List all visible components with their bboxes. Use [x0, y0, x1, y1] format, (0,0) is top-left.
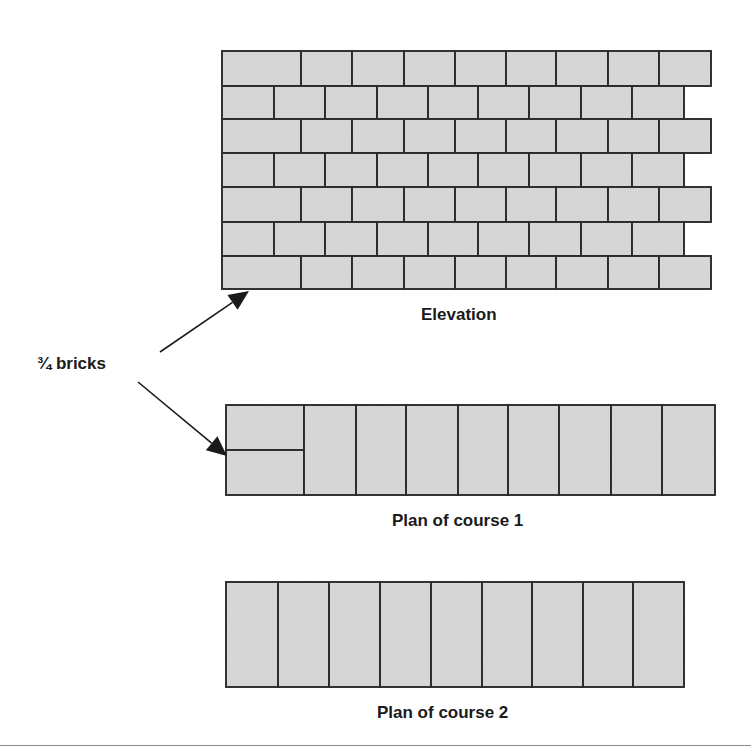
brick-texture: [325, 153, 377, 187]
brick-texture: [455, 187, 506, 222]
brick-texture: [278, 582, 329, 687]
brick-texture: [482, 582, 532, 687]
three-quarter-bricks-label: ¾ bricks: [37, 354, 106, 374]
arrow-line: [160, 302, 233, 352]
brick-texture: [377, 86, 428, 119]
brick-texture: [532, 582, 583, 687]
brick-texture: [455, 51, 506, 86]
arrow-line: [138, 382, 212, 443]
brick-texture: [222, 51, 301, 86]
brick-texture: [301, 119, 352, 153]
brick-texture: [581, 86, 632, 119]
brick-texture: [377, 153, 428, 187]
brick-texture: [428, 222, 478, 256]
brick-bond-diagram: [0, 0, 751, 756]
brick-texture: [608, 51, 659, 86]
brick-texture: [404, 187, 455, 222]
brick-texture: [608, 256, 659, 289]
brick-texture: [556, 256, 608, 289]
brick-texture: [478, 153, 529, 187]
brick-texture: [455, 256, 506, 289]
brick-texture: [226, 582, 278, 687]
brick-texture: [304, 405, 356, 495]
arrowhead-icon: [227, 291, 249, 310]
brick-texture: [325, 86, 377, 119]
brick-texture: [478, 222, 529, 256]
brick-texture: [428, 86, 478, 119]
brick-texture: [222, 187, 301, 222]
brick-texture: [458, 405, 508, 495]
brick-texture: [529, 153, 581, 187]
brick-texture: [226, 405, 304, 450]
brick-texture: [329, 582, 380, 687]
plan-course-2-caption: Plan of course 2: [377, 703, 508, 723]
brick-texture: [222, 256, 301, 289]
brick-texture: [274, 153, 325, 187]
brick-texture: [222, 222, 274, 256]
brick-texture: [559, 405, 611, 495]
brick-texture: [556, 119, 608, 153]
brick-texture: [352, 256, 404, 289]
brick-texture: [431, 582, 482, 687]
elevation-wall: [222, 51, 711, 289]
brick-texture: [659, 51, 711, 86]
brick-texture: [478, 86, 529, 119]
brick-texture: [659, 187, 711, 222]
brick-texture: [529, 86, 581, 119]
brick-texture: [455, 119, 506, 153]
brick-texture: [659, 119, 711, 153]
brick-texture: [632, 86, 684, 119]
brick-texture: [222, 86, 274, 119]
brick-texture: [581, 222, 632, 256]
brick-texture: [352, 187, 404, 222]
brick-texture: [404, 51, 455, 86]
brick-texture: [274, 86, 325, 119]
brick-texture: [301, 51, 352, 86]
brick-texture: [352, 119, 404, 153]
brick-texture: [556, 51, 608, 86]
brick-texture: [508, 405, 559, 495]
arrowhead-icon: [206, 436, 227, 456]
brick-texture: [529, 222, 581, 256]
brick-texture: [377, 222, 428, 256]
plan-course-1-caption: Plan of course 1: [392, 511, 523, 531]
brick-texture: [506, 187, 556, 222]
brick-texture: [506, 51, 556, 86]
brick-texture: [556, 187, 608, 222]
brick-texture: [274, 222, 325, 256]
plan-course-2: [226, 582, 684, 687]
plan-course-1: [226, 405, 715, 495]
brick-texture: [428, 153, 478, 187]
bottom-divider: [0, 745, 751, 746]
brick-texture: [611, 405, 662, 495]
brick-texture: [404, 119, 455, 153]
brick-texture: [301, 187, 352, 222]
brick-texture: [506, 119, 556, 153]
brick-texture: [325, 222, 377, 256]
brick-texture: [632, 222, 684, 256]
brick-texture: [583, 582, 633, 687]
brick-texture: [406, 405, 458, 495]
brick-texture: [608, 119, 659, 153]
brick-texture: [222, 153, 274, 187]
brick-texture: [581, 153, 632, 187]
brick-texture: [608, 187, 659, 222]
brick-texture: [659, 256, 711, 289]
brick-texture: [226, 450, 304, 495]
brick-texture: [404, 256, 455, 289]
brick-texture: [356, 405, 406, 495]
brick-texture: [662, 405, 715, 495]
brick-texture: [301, 256, 352, 289]
brick-texture: [352, 51, 404, 86]
brick-texture: [222, 119, 301, 153]
brick-texture: [633, 582, 684, 687]
brick-texture: [506, 256, 556, 289]
brick-texture: [632, 153, 684, 187]
elevation-caption: Elevation: [421, 305, 497, 325]
brick-texture: [380, 582, 431, 687]
